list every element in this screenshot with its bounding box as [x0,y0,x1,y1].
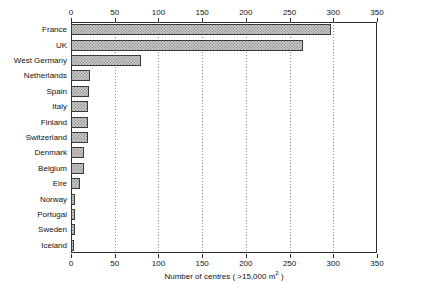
bar [71,178,80,189]
bar [71,24,331,35]
bar [71,147,84,158]
category-label: Portugal [0,210,67,219]
x-axis-tick [71,18,72,22]
bar [71,55,141,66]
bar [71,240,74,251]
bar-row [71,24,377,35]
x-axis-tick-label: 0 [69,259,73,268]
x-axis-tick [333,18,334,22]
bar [71,224,75,235]
x-axis-tick-label: 350 [370,259,383,268]
x-axis-tick [71,254,72,258]
x-axis-tick [290,18,291,22]
x-axis-tick [115,254,116,258]
bar-row [71,240,377,251]
x-axis-tick [246,254,247,258]
x-axis-tick-label: 100 [152,8,165,17]
x-axis-tick-label: 250 [283,8,296,17]
bar-row [71,224,377,235]
x-axis-top: 050100150200250300350 [71,22,377,23]
x-axis-tick-label: 0 [69,8,73,17]
x-axis-tick-label: 150 [195,8,208,17]
category-label: Sweden [0,225,67,234]
bar-row [71,70,377,81]
x-axis-tick-label: 50 [110,259,119,268]
bar [71,163,84,174]
bar [71,101,88,112]
x-axis-tick [333,254,334,258]
bar-row [71,178,377,189]
x-axis-tick [115,18,116,22]
x-axis-tick [158,254,159,258]
x-axis-tick-label: 300 [327,8,340,17]
category-label: Norway [0,195,67,204]
bar-row [71,132,377,143]
category-label: Spain [0,87,67,96]
category-label: Italy [0,102,67,111]
bar [71,86,89,97]
x-axis-tick-label: 350 [370,8,383,17]
bar [71,40,303,51]
category-label: UK [0,41,67,50]
bar [71,194,75,205]
x-axis-tick-label: 250 [283,259,296,268]
x-axis-tick-label: 150 [195,259,208,268]
category-label: France [0,25,67,34]
bar-chart: FranceUKWest GermanyNetherlandsSpainItal… [0,0,444,299]
x-axis-title-suffix: ) [279,272,284,281]
bar [71,132,88,143]
x-axis-tick [158,18,159,22]
bar [71,117,88,128]
bar-row [71,86,377,97]
x-axis-tick [377,18,378,22]
category-axis-labels: FranceUKWest GermanyNetherlandsSpainItal… [0,22,67,253]
x-axis-bottom: 050100150200250300350 [71,253,377,254]
bar-row [71,55,377,66]
bar [71,70,90,81]
bar-row [71,194,377,205]
category-label: Denmark [0,148,67,157]
x-axis-tick [202,18,203,22]
x-axis-title: Number of centres ( >15,000 m2 ) [71,272,377,282]
category-label: Switzerland [0,133,67,142]
bar-row [71,209,377,220]
category-label: Finland [0,118,67,127]
x-axis-tick-label: 200 [239,8,252,17]
bar-row [71,147,377,158]
x-axis-tick-label: 50 [110,8,119,17]
category-label: West Germany [0,56,67,65]
x-axis-tick [246,18,247,22]
x-axis-tick [202,254,203,258]
x-axis-title-prefix: Number of centres ( >15,000 m [164,272,275,281]
category-label: Iceland [0,241,67,250]
x-axis-tick-label: 100 [152,259,165,268]
category-label: Belgium [0,164,67,173]
bar [71,209,75,220]
bar-row [71,163,377,174]
category-label: Netherlands [0,71,67,80]
bar-row [71,101,377,112]
x-axis-tick-label: 300 [327,259,340,268]
x-axis-tick [290,254,291,258]
x-axis-tick-label: 200 [239,259,252,268]
bar-row [71,117,377,128]
bar-series [71,22,377,253]
category-label: Eire [0,179,67,188]
x-axis-tick [377,254,378,258]
bar-row [71,40,377,51]
